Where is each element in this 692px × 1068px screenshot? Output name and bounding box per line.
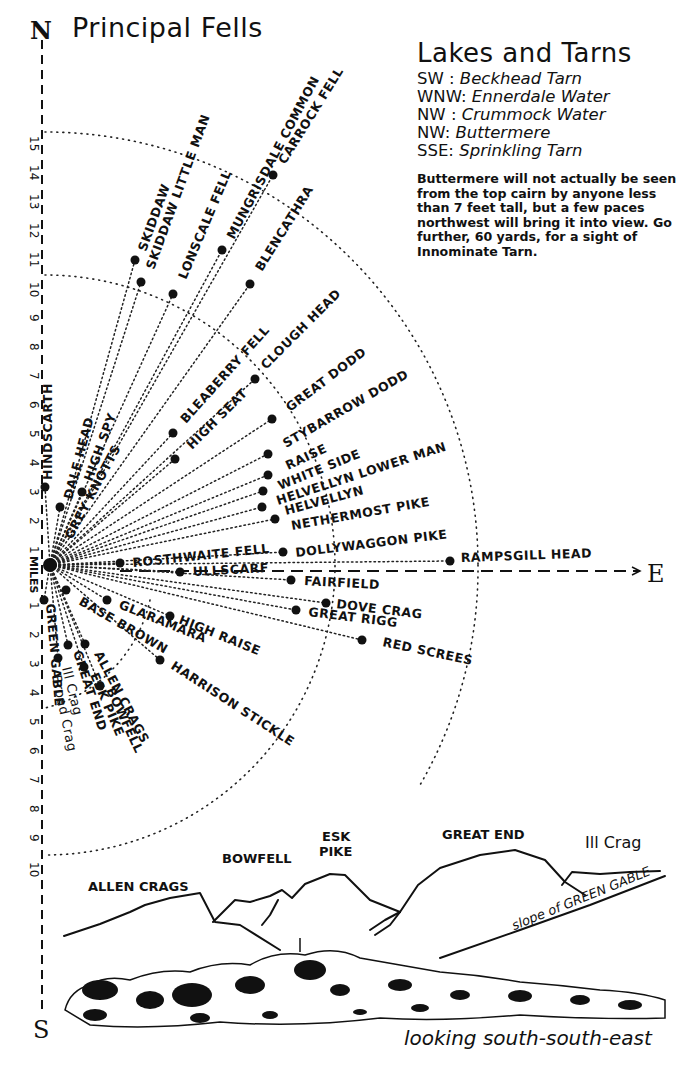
ridge-label-allen-crags: ALLEN CRAGS xyxy=(88,880,189,894)
s-tick-10: 10 xyxy=(27,862,41,877)
north-label: N xyxy=(30,16,52,45)
tick-5: 5 xyxy=(27,430,41,438)
tick-14: 14 xyxy=(27,165,41,180)
view-caption: looking south-south-east xyxy=(404,1026,652,1050)
tick-11: 11 xyxy=(27,252,41,267)
lakes-and-tarns-panel: Lakes and Tarns SW : Beckhead Tarn WNW: … xyxy=(417,38,687,260)
lake-item: SW : Beckhead Tarn xyxy=(417,70,687,88)
lake-direction: SW : xyxy=(417,70,455,88)
lake-direction: SSE: xyxy=(417,142,454,160)
lake-name: Beckhead Tarn xyxy=(460,69,582,88)
buttermere-note: Buttermere will not actually be seen fro… xyxy=(417,172,682,260)
tick-2: 2 xyxy=(27,517,41,525)
fell-label-ullscarf: ULLSCARF xyxy=(192,560,269,579)
lake-item: NW : Crummock Water xyxy=(417,106,687,124)
tick-12: 12 xyxy=(27,223,41,238)
ridge-label-esk: ESK xyxy=(322,830,350,844)
lake-direction: WNW: xyxy=(417,88,467,106)
tick-10: 10 xyxy=(27,282,41,297)
south-scale: 1 2 3 4 5 6 7 8 9 10 xyxy=(27,602,41,877)
fell-label-green-gable: GREEN GABLE xyxy=(43,603,67,707)
fell-label-harrison-stickle: HARRISON STICKLE xyxy=(168,658,297,749)
tick-9: 9 xyxy=(27,314,41,322)
south-label: S xyxy=(33,1016,49,1044)
tick-13: 13 xyxy=(27,194,41,209)
ridge-label-great-end: GREAT END xyxy=(442,828,525,842)
north-scale: 1 2 3 4 5 6 7 8 9 10 11 12 13 14 15 MILE… xyxy=(27,136,41,594)
lake-name: Ennerdale Water xyxy=(472,87,610,106)
lakes-and-tarns-title: Lakes and Tarns xyxy=(417,38,687,68)
tick-1: 1 xyxy=(27,546,41,554)
foreground-rocks xyxy=(65,938,665,1027)
ridge-label-pike: PIKE xyxy=(319,845,352,859)
fell-label-hindscarth: HINDSCARTH xyxy=(40,383,55,480)
s-tick-8: 8 xyxy=(27,805,41,813)
tick-15: 15 xyxy=(27,136,41,151)
tick-8: 8 xyxy=(27,343,41,351)
lake-name: Crummock Water xyxy=(462,105,606,124)
lake-name: Buttermere xyxy=(456,123,551,142)
s-tick-2: 2 xyxy=(27,631,41,639)
scale-unit-label: MILES xyxy=(27,556,40,594)
s-tick-6: 6 xyxy=(27,747,41,755)
principal-fells-title: Principal Fells xyxy=(72,12,263,43)
s-tick-5: 5 xyxy=(27,718,41,726)
fell-label-clough-head: CLOUGH HEAD xyxy=(258,286,344,372)
fell-label-mungrisdale-common: MUNGRISDALE COMMON xyxy=(223,73,322,241)
tick-4: 4 xyxy=(27,459,41,467)
s-tick-7: 7 xyxy=(27,776,41,784)
fell-label-dollywaggon-pike: DOLLYWAGGON PIKE xyxy=(295,526,449,560)
s-tick-1: 1 xyxy=(27,602,41,610)
tick-3: 3 xyxy=(27,488,41,496)
ridge-label-ill-crag: Ill Crag xyxy=(585,836,641,850)
s-tick-9: 9 xyxy=(27,834,41,842)
ridge-label-bowfell: BOWFELL xyxy=(222,852,292,866)
tick-7: 7 xyxy=(27,372,41,380)
s-tick-4: 4 xyxy=(27,689,41,697)
fell-label-red-screes: RED SCREES xyxy=(381,634,474,668)
s-tick-3: 3 xyxy=(27,660,41,668)
fell-label-fairfield: FAIRFIELD xyxy=(304,573,380,592)
tick-6: 6 xyxy=(27,401,41,409)
lake-item: NW: Buttermere xyxy=(417,124,687,142)
east-label: E xyxy=(647,560,665,588)
lake-direction: NW: xyxy=(417,124,450,142)
fell-label-rampsgill-head: RAMPSGILL HEAD xyxy=(461,545,593,565)
lake-item: SSE: Sprinkling Tarn xyxy=(417,142,687,160)
lake-item: WNW: Ennerdale Water xyxy=(417,88,687,106)
lake-name: Sprinkling Tarn xyxy=(459,141,582,160)
lake-direction: NW : xyxy=(417,106,456,124)
fell-label-blencathra: BLENCATHRA xyxy=(252,183,316,274)
